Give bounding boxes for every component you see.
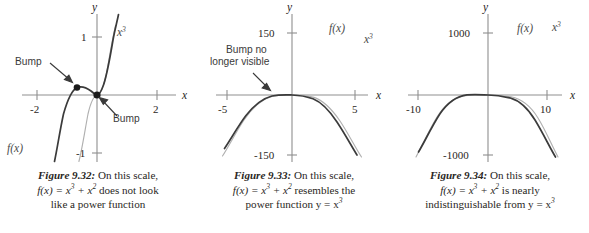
marked-point-local-max [74,84,81,91]
curve-label-x3-9-32: x3 [116,25,126,38]
curve-fx-9-33 [225,95,358,155]
caption-line1-rest-9-34: On this scale, [487,169,550,181]
caption-figure-number-9-34: Figure 9.34: [430,169,487,181]
figure-panel-9-33: x y -5 5 150 -150 f(x) x3 Bump no longer… [196,0,392,233]
caption-line2-prefix-9-33: f(x) = x [233,184,266,196]
y-tick-neg150-9-33: -150 [254,149,275,161]
plot-area-9-32: x y -2 2 1 -1 x3 f(x) [0,0,196,168]
x-tick-neg2-9-32: -2 [30,103,39,115]
curve-label-fx-9-34: f(x) [517,22,533,35]
y-tick-neg1-9-32: -1 [76,147,85,159]
y-tick-pos1000-9-34: 1000 [448,27,471,39]
caption-line2-prefix-9-32: f(x) = x [37,184,70,196]
caption-line3-prefix-9-34: indistinguishable from y = x [425,198,551,210]
bump-note-line1-9-33: Bump no [226,44,267,56]
caption-line1-rest-9-32: On this scale, [95,169,158,181]
y-tick-pos150-9-33: 150 [258,27,275,39]
caption-figure-number-9-32: Figure 9.32: [38,169,95,181]
plot-area-9-34: x y -10 10 1000 -1000 f(x) x3 [392,0,588,168]
caption-9-34: Figure 9.34: On this scale, f(x) = x3 + … [396,168,584,212]
x-tick-pos5-9-33: 5 [352,103,358,115]
axes-9-34 [408,14,562,162]
x-tick-pos10-9-34: 10 [540,103,552,115]
curve-label-x3-9-34: x3 [551,20,561,33]
caption-9-32: Figure 9.32: On this scale, f(x) = x3 + … [4,168,192,212]
y-tick-pos1-9-32: 1 [81,31,87,43]
figure-row: x y -2 2 1 -1 x3 f(x) Bump Bump Figure 9… [0,0,589,233]
y-axis-name-9-32: y [91,1,98,14]
caption-line2-suffix-9-33: resembles the [292,184,355,196]
y-axis-name-9-34: y [482,1,489,14]
curve-label-fx-9-33: f(x) [329,22,345,35]
figure-panel-9-34: x y -10 10 1000 -1000 f(x) x3 Figure 9.3… [392,0,588,233]
bump-note-line2-9-33: longer visible [210,56,269,68]
caption-9-33: Figure 9.33: On this scale, f(x) = x3 + … [200,168,388,212]
caption-line1-rest-9-33: On this scale, [291,169,354,181]
figure-panel-9-32: x y -2 2 1 -1 x3 f(x) Bump Bump Figure 9… [0,0,196,233]
caption-figure-number-9-33: Figure 9.33: [234,169,291,181]
x-tick-neg5-9-33: -5 [218,103,228,115]
caption-line2-mid-9-33: + x [270,184,288,196]
caption-line2-suffix-9-34: is nearly [499,184,540,196]
caption-line3-sup-9-33: 3 [339,197,343,206]
caption-line2-mid-9-32: + x [74,184,92,196]
curve-x-cubed-9-34 [416,95,558,157]
y-axis-name-9-33: y [286,1,293,14]
caption-line3-sup-9-34: 3 [551,197,555,206]
curve-fx-9-32 [55,15,119,162]
caption-line3-prefix-9-33: power function y = x [246,198,339,210]
axes-9-32 [22,14,176,162]
bump-label-right-9-32: Bump [113,113,140,125]
x-tick-pos2-9-32: 2 [153,103,159,115]
caption-line2-suffix-9-32: does not look [96,184,159,196]
curve-label-x3-9-33: x3 [363,32,373,45]
axes-9-33 [216,14,368,162]
caption-line3-9-32: like a power function [51,198,146,210]
plot-area-9-33: x y -5 5 150 -150 f(x) x3 [196,0,392,168]
x-axis-name-9-34: x [569,89,576,101]
curve-label-fx-9-32: f(x) [7,142,23,155]
x-axis-name-9-33: x [375,89,382,101]
bump-label-left-9-32: Bump [15,56,42,68]
bump-note-arrow-9-33 [253,73,271,91]
y-tick-neg1000-9-34: -1000 [443,149,469,161]
caption-line2-prefix-9-34: f(x) = x [440,184,473,196]
bump-arrow-left [50,63,73,83]
x-tick-neg10-9-34: -10 [406,103,421,115]
x-axis-name-9-32: x [181,89,188,101]
curve-fx-9-34 [419,95,556,157]
caption-line2-mid-9-34: + x [477,184,495,196]
